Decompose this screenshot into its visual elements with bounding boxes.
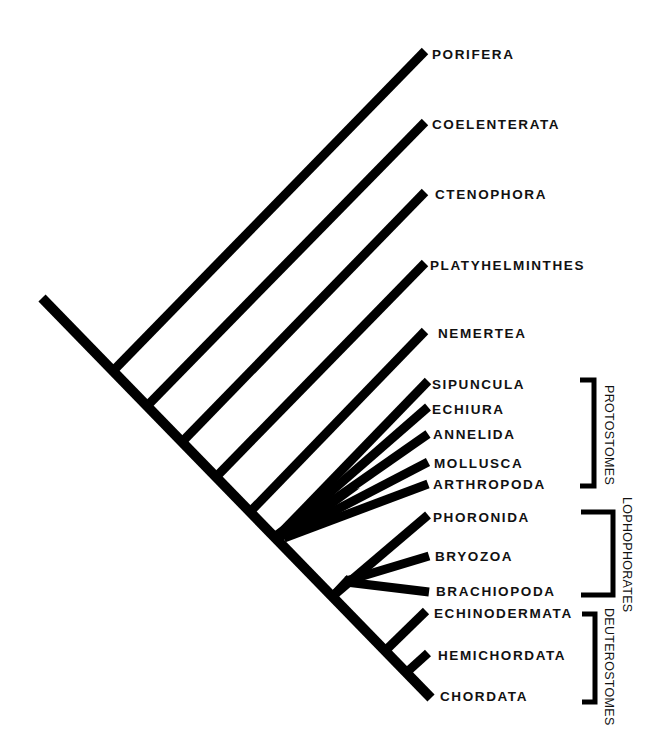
branch-annelida <box>282 434 428 536</box>
branch-echinodermata <box>386 611 426 650</box>
label-platyhelminthes: PLATYHELMINTHES <box>430 259 585 273</box>
tree-trunk <box>42 298 431 698</box>
label-sipuncula: SIPUNCULA <box>432 378 525 392</box>
group-label-lophophorates: LOPHOPHORATES <box>620 497 633 613</box>
branch-coelenterata <box>147 122 425 406</box>
branch-porifera <box>113 51 425 371</box>
label-coelenterata: COELENTERATA <box>432 118 560 132</box>
label-mollusca: MOLLUSCA <box>434 457 523 471</box>
label-nemertea: NEMERTEA <box>438 327 527 341</box>
branch-brachiopoda <box>346 582 429 592</box>
label-ctenophora: CTENOPHORA <box>435 188 547 202</box>
label-bryozoa: BRYOZOA <box>435 550 513 564</box>
phylogenetic-tree <box>0 0 662 753</box>
group-label-protostomes: PROTOSTOMES <box>602 385 615 485</box>
label-chordata: CHORDATA <box>440 690 528 704</box>
label-phoronida: PHORONIDA <box>433 511 530 525</box>
bracket-protostomes <box>580 380 594 486</box>
label-hemichordata: HEMICHORDATA <box>438 649 566 663</box>
label-brachiopoda: BRACHIOPODA <box>436 585 556 599</box>
branch-ctenophora <box>182 192 425 442</box>
label-echinodermata: ECHINODERMATA <box>434 607 573 621</box>
group-label-deuterostomes: DEUTEROSTOMES <box>602 608 615 726</box>
bracket-lophophorates <box>581 512 613 595</box>
label-porifera: PORIFERA <box>432 48 515 62</box>
label-arthropoda: ARTHROPODA <box>433 478 546 492</box>
label-annelida: ANNELIDA <box>433 428 516 442</box>
branch-hemichordata <box>407 653 428 672</box>
bracket-deuterostomes <box>582 614 595 702</box>
label-echiura: ECHIURA <box>432 403 505 417</box>
